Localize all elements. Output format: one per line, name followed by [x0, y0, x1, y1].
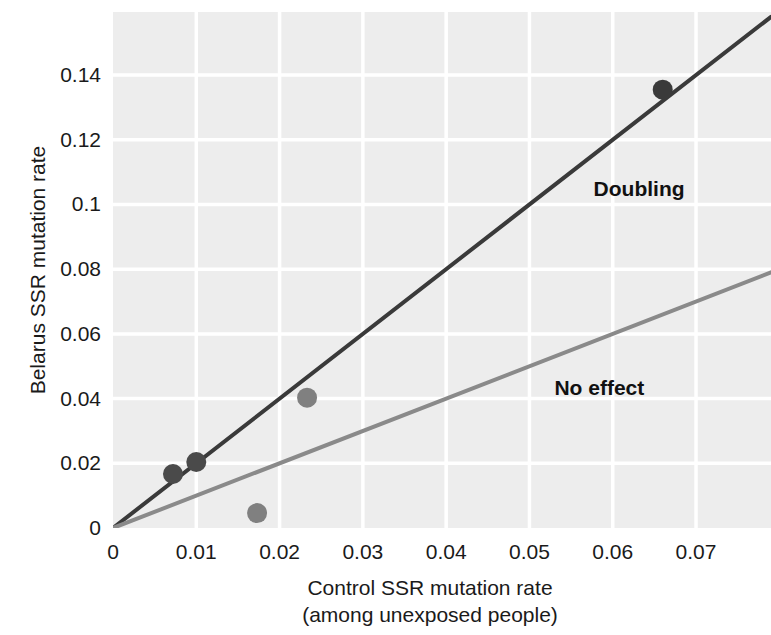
x-tick-label: 0.01 — [176, 540, 217, 564]
annotation-no-effect: No effect — [554, 376, 644, 400]
x-tick-label: 0.03 — [342, 540, 383, 564]
x-axis-title: Control SSR mutation rate — [307, 576, 552, 600]
chart-figure: 00.020.040.060.080.10.120.14 00.010.020.… — [0, 0, 771, 635]
x-tick-label: 0.04 — [426, 540, 467, 564]
y-tick-label: 0.12 — [60, 128, 101, 152]
x-tick-label: 0.06 — [592, 540, 633, 564]
y-tick-label: 0 — [89, 516, 101, 540]
x-tick-label: 0.07 — [676, 540, 717, 564]
data-point — [163, 464, 183, 484]
y-tick-label: 0.08 — [60, 257, 101, 281]
data-point — [297, 388, 317, 408]
x-tick-label: 0 — [107, 540, 119, 564]
y-tick-label: 0.14 — [60, 63, 101, 87]
data-point — [247, 503, 267, 523]
x-tick-label: 0.05 — [509, 540, 550, 564]
y-tick-label: 0.02 — [60, 451, 101, 475]
x-tick-label: 0.02 — [259, 540, 300, 564]
x-axis-subtitle: (among unexposed people) — [302, 603, 558, 627]
y-tick-label: 0.04 — [60, 387, 101, 411]
annotation-doubling: Doubling — [594, 177, 685, 201]
data-point — [186, 452, 206, 472]
y-tick-label: 0.06 — [60, 322, 101, 346]
y-tick-label: 0.1 — [72, 192, 101, 216]
data-point — [653, 80, 673, 100]
y-axis-title: Belarus SSR mutation rate — [26, 146, 50, 395]
